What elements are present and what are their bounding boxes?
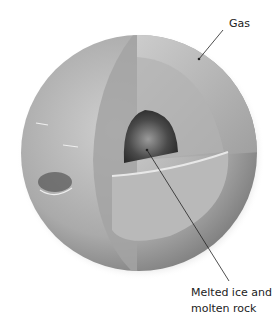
dark-storm-spot [38,172,72,192]
label-gas: Gas [229,17,250,31]
planet-cutaway-diagram [0,0,278,327]
label-core-line2: molten rock [191,302,256,316]
label-core-line1: Melted ice and [191,286,272,300]
